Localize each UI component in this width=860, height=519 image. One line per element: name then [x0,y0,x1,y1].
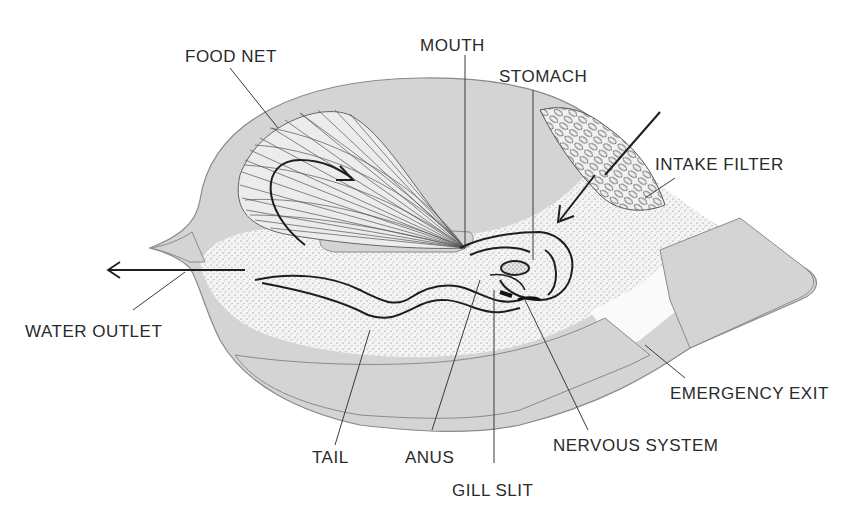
label-food-net: FOOD NET [185,48,277,65]
label-tail: TAIL [312,449,349,466]
label-emergency-exit: EMERGENCY EXIT [670,385,829,402]
label-gill-slit: GILL SLIT [452,482,533,499]
label-nervous-system: NERVOUS SYSTEM [553,437,718,454]
house-body [150,78,816,432]
label-anus: ANUS [405,449,454,466]
larvacean-diagram [0,0,860,519]
label-water-outlet: WATER OUTLET [25,323,162,340]
label-stomach: STOMACH [499,68,587,85]
label-mouth: MOUTH [420,37,485,54]
leader-water-outlet [133,272,185,310]
label-intake-filter: INTAKE FILTER [655,156,784,173]
